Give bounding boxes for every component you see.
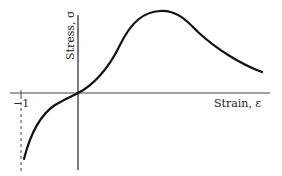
stress-strain-curve	[24, 11, 262, 159]
tick-label-minus-one: −1	[13, 97, 29, 110]
stress-strain-diagram: −1 Strain, ε Stress, σ	[0, 0, 282, 176]
y-axis-label: Stress, σ	[64, 10, 77, 60]
x-axis-label: Strain, ε	[214, 97, 261, 110]
